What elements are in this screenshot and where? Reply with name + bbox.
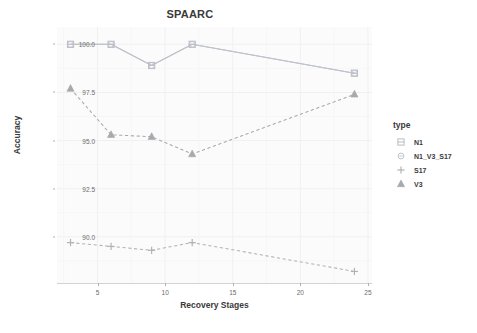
y-tick-label: 100.0 bbox=[79, 41, 95, 48]
legend-item-label: V3 bbox=[414, 181, 423, 188]
x-tick-label: 25 bbox=[364, 289, 371, 296]
y-tick-label: 92.5 bbox=[82, 185, 95, 192]
x-tick-mark bbox=[233, 283, 234, 286]
legend-item-n1_v3_s17[interactable]: N1_V3_S17 bbox=[393, 149, 477, 163]
y-tick-label: 97.5 bbox=[82, 89, 95, 96]
x-axis-title: Recovery Stages bbox=[57, 300, 372, 310]
page-footer-text bbox=[14, 322, 214, 330]
legend-marker-circle-icon bbox=[393, 149, 409, 163]
x-tick-mark bbox=[98, 283, 99, 286]
x-tick-mark bbox=[300, 283, 301, 286]
legend-item-s17[interactable]: S17 bbox=[393, 163, 477, 177]
x-axis-line bbox=[57, 283, 372, 284]
x-tick-label: 5 bbox=[96, 289, 100, 296]
legend-title: type bbox=[393, 120, 477, 130]
y-tick-mark bbox=[53, 236, 55, 237]
y-tick-mark bbox=[53, 188, 55, 189]
series-markers-S17 bbox=[67, 239, 358, 275]
chart-title: SPAARC bbox=[0, 8, 380, 20]
legend: type N1N1_V3_S17S17V3 bbox=[393, 120, 477, 191]
series-markers-V3 bbox=[67, 85, 358, 157]
legend-items: N1N1_V3_S17S17V3 bbox=[393, 135, 477, 191]
plot-svg bbox=[57, 27, 372, 283]
legend-item-n1[interactable]: N1 bbox=[393, 135, 477, 149]
x-tick-label: 10 bbox=[162, 289, 169, 296]
y-tick-mark bbox=[53, 92, 55, 93]
legend-marker-triangle-icon bbox=[393, 177, 409, 191]
series-markers-N1 bbox=[67, 41, 357, 76]
y-tick-mark bbox=[53, 140, 55, 141]
y-tick-label: 90.0 bbox=[82, 233, 95, 240]
y-axis-title: Accuracy bbox=[12, 80, 22, 190]
legend-marker-square-icon bbox=[393, 135, 409, 149]
y-tick-label: 95.0 bbox=[82, 137, 95, 144]
x-tick-mark bbox=[165, 283, 166, 286]
legend-item-v3[interactable]: V3 bbox=[393, 177, 477, 191]
plot-panel bbox=[57, 27, 372, 283]
x-tick-mark bbox=[368, 283, 369, 286]
x-tick-label: 15 bbox=[229, 289, 236, 296]
series-markers-N1_V3_S17 bbox=[68, 41, 358, 76]
legend-item-label: S17 bbox=[414, 167, 426, 174]
legend-item-label: N1_V3_S17 bbox=[414, 153, 452, 160]
y-tick-mark bbox=[53, 44, 55, 45]
chart-root: SPAARC 90.092.595.097.5100.0 510152025 R… bbox=[0, 0, 477, 333]
series-line-V3 bbox=[71, 89, 355, 154]
x-tick-label: 20 bbox=[297, 289, 304, 296]
legend-marker-plus-icon bbox=[393, 163, 409, 177]
legend-item-label: N1 bbox=[414, 139, 423, 146]
